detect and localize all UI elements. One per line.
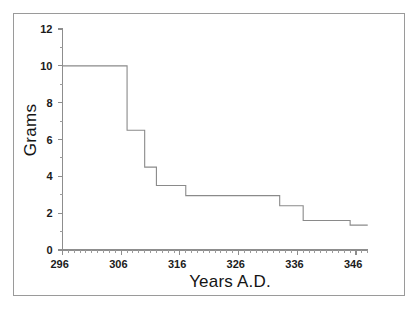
x-tick-label: 296 [51, 259, 69, 270]
y-tick-label: 0 [25, 245, 53, 256]
x-tick-label: 346 [344, 259, 362, 270]
x-tick-label: 326 [227, 259, 245, 270]
x-tick-label: 336 [285, 259, 303, 270]
y-axis-title: Grams [21, 90, 41, 170]
y-tick-label: 10 [25, 61, 53, 72]
step-line-path [63, 66, 368, 225]
x-tick-label: 316 [168, 259, 186, 270]
y-tick-label: 12 [25, 24, 53, 35]
figure-canvas: 296306316326336346 024681012 Grams Years… [0, 0, 419, 315]
x-axis [63, 250, 368, 255]
y-tick-label: 2 [25, 208, 53, 219]
x-tick-label: 306 [109, 259, 127, 270]
y-tick-label: 4 [25, 171, 53, 182]
y-axis [58, 29, 63, 250]
x-axis-title: Years A.D. [130, 272, 330, 292]
data-series-step-line [63, 66, 368, 225]
